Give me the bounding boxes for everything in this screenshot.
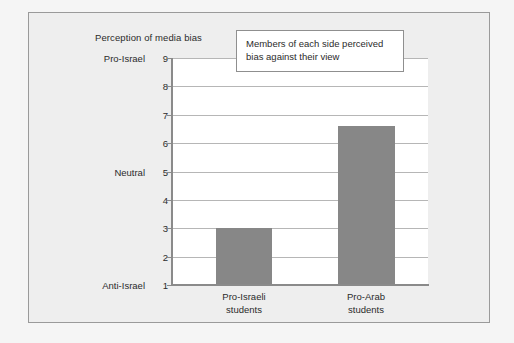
y-tick-label-9: 9	[152, 53, 168, 64]
y-tick-mark-7	[167, 115, 171, 116]
annotation-callout: Members of each side perceived bias agai…	[236, 30, 404, 72]
x-axis-line	[171, 284, 429, 286]
y-axis-label-neutral: Neutral	[35, 166, 145, 177]
y-tick-label-6: 6	[152, 138, 168, 149]
y-tick-label-8: 8	[152, 81, 168, 92]
y-tick-label-3: 3	[152, 223, 168, 234]
y-tick-mark-8	[167, 86, 171, 87]
y-tick-label-7: 7	[152, 109, 168, 120]
y-axis-category-labels: Pro-Israel Neutral Anti-Israel	[30, 0, 145, 343]
x-axis-label-pro-israeli-students: Pro-Israeli students	[184, 291, 304, 316]
x-axis-label-pro-arab-students: Pro-Arab students	[306, 291, 426, 316]
x-axis-label-line2: students	[306, 304, 426, 317]
y-tick-mark-6	[167, 143, 171, 144]
x-axis-label-line1: Pro-Arab	[306, 291, 426, 304]
y-tick-mark-3	[167, 228, 171, 229]
y-tick-mark-4	[167, 200, 171, 201]
gridline-8	[172, 86, 428, 87]
figure-canvas: Perception of media bias 9 8 7 6 5 4 3 2…	[0, 0, 514, 343]
y-axis-label-anti-israel: Anti-Israel	[35, 280, 145, 291]
y-tick-label-4: 4	[152, 194, 168, 205]
bar-pro-israeli-students[interactable]	[216, 228, 272, 285]
y-axis-label-pro-israel: Pro-Israel	[35, 53, 145, 64]
x-axis-label-line1: Pro-Israeli	[184, 291, 304, 304]
gridline-7	[172, 115, 428, 116]
y-tick-mark-9	[167, 58, 171, 59]
plot-area	[172, 58, 428, 285]
y-tick-label-2: 2	[152, 251, 168, 262]
y-axis-line	[171, 58, 173, 286]
y-tick-label-5: 5	[152, 166, 168, 177]
y-tick-mark-5	[167, 172, 171, 173]
y-tick-mark-1	[167, 285, 171, 286]
y-tick-mark-2	[167, 257, 171, 258]
x-axis-label-line2: students	[184, 304, 304, 317]
bar-pro-arab-students[interactable]	[338, 126, 395, 285]
y-tick-label-1: 1	[152, 280, 168, 291]
